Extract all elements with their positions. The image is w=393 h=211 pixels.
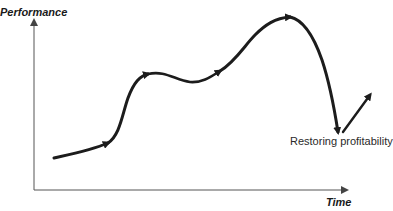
axes xyxy=(34,22,345,190)
restoring-profitability-annotation: Restoring profitability xyxy=(290,135,393,147)
y-axis-label: Performance xyxy=(0,6,67,18)
x-axis-label: Time xyxy=(326,196,351,208)
performance-time-diagram xyxy=(0,0,393,211)
